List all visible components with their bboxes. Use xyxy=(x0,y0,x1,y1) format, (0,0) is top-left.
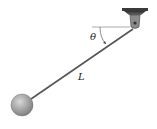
ceiling-mount xyxy=(122,8,148,29)
pendulum-bob xyxy=(11,94,33,116)
angle-label-theta: θ xyxy=(90,32,96,42)
pendulum-diagram xyxy=(0,0,157,129)
pendulum-rod xyxy=(31,29,133,99)
length-label-L: L xyxy=(78,72,85,82)
angle-arrowhead xyxy=(103,41,106,44)
figure-caption xyxy=(40,119,120,123)
